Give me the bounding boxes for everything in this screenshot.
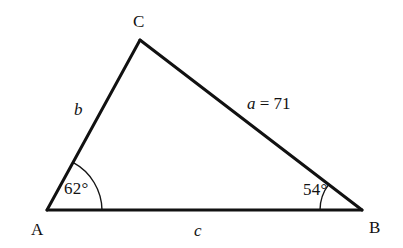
angle-label-a: 62° <box>64 180 88 197</box>
vertex-label-b: B <box>369 219 380 236</box>
side-label-b: b <box>74 101 83 118</box>
side-a-value: = 71 <box>256 94 291 113</box>
side-a-variable: a <box>247 94 256 113</box>
vertex-label-c: C <box>133 13 144 30</box>
side-label-c: c <box>194 222 202 239</box>
vertex-label-a: A <box>31 221 43 238</box>
triangle-figure <box>0 0 403 248</box>
angle-label-b: 54° <box>303 181 327 198</box>
side-label-a: a = 71 <box>247 95 291 112</box>
